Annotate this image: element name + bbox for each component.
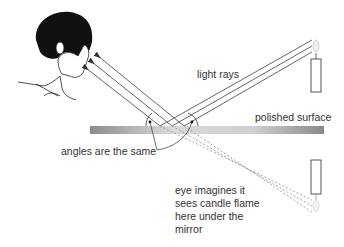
eye-imagines-line-1: eye imagines it	[175, 184, 260, 197]
polished-surface	[90, 126, 324, 134]
virtual-candle-icon	[311, 160, 321, 212]
eye-imagines-line-2: sees candle flame	[175, 197, 260, 210]
label-angles-same: angles are the same	[61, 145, 156, 158]
label-eye-imagines: eye imagines it sees candle flame here u…	[175, 184, 260, 236]
eye-imagines-line-3: here under the	[175, 210, 260, 223]
reflected-rays	[86, 56, 184, 126]
reflection-diagram: light rays polished surface angles are t…	[0, 0, 344, 247]
label-polished-surface: polished surface	[255, 111, 331, 124]
label-light-rays: light rays	[197, 68, 239, 81]
candle-icon	[311, 40, 321, 92]
eye-imagines-line-4: mirror	[175, 223, 260, 236]
boy-head-icon	[18, 12, 92, 100]
